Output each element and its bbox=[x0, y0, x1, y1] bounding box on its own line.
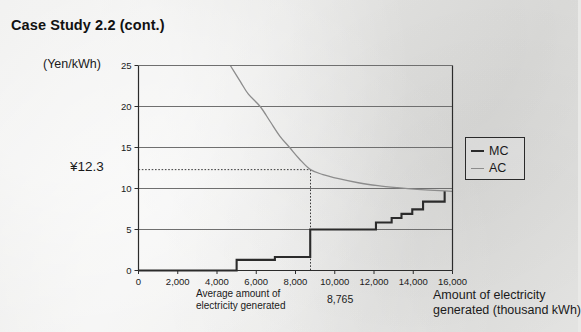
svg-text:2,000: 2,000 bbox=[166, 276, 190, 287]
svg-text:10: 10 bbox=[121, 183, 132, 194]
average-output-line2: electricity generated bbox=[196, 300, 286, 312]
svg-text:8,000: 8,000 bbox=[284, 276, 308, 287]
legend-label-mc: MC bbox=[489, 145, 508, 158]
svg-text:5: 5 bbox=[126, 224, 131, 235]
svg-text:6,000: 6,000 bbox=[244, 276, 268, 287]
svg-text:4,000: 4,000 bbox=[205, 276, 229, 287]
chart-legend: MC AC bbox=[465, 137, 525, 180]
svg-text:0: 0 bbox=[126, 265, 131, 276]
gridlines bbox=[139, 66, 453, 230]
legend-swatch-mc bbox=[471, 150, 484, 152]
legend-item-ac: AC bbox=[471, 162, 506, 175]
svg-text:25: 25 bbox=[121, 60, 132, 71]
average-output-annotation: Average amount of electricity generated bbox=[196, 288, 286, 311]
plot-axes bbox=[139, 66, 453, 271]
average-output-value: 8,765 bbox=[327, 293, 353, 305]
y-axis-ticks: 0510152025 bbox=[121, 60, 139, 276]
svg-text:16,000: 16,000 bbox=[438, 276, 467, 287]
svg-text:20: 20 bbox=[121, 101, 132, 112]
x-axis-title-line1: Amount of electricity bbox=[433, 288, 581, 303]
x-axis-ticks: 02,0004,0006,0008,00010,00012,00014,0001… bbox=[136, 271, 467, 287]
average-output-line1: Average amount of bbox=[196, 288, 286, 300]
legend-item-mc: MC bbox=[471, 145, 508, 158]
data-series bbox=[139, 66, 453, 271]
svg-text:0: 0 bbox=[136, 276, 141, 287]
svg-text:14,000: 14,000 bbox=[399, 276, 428, 287]
average-output-guide bbox=[139, 170, 311, 271]
legend-label-ac: AC bbox=[489, 162, 506, 175]
x-axis-title-line2: generated (thousand kWh) bbox=[433, 303, 581, 318]
svg-text:10,000: 10,000 bbox=[320, 276, 349, 287]
legend-swatch-ac bbox=[471, 168, 484, 169]
x-axis-title: Amount of electricity generated (thousan… bbox=[433, 288, 581, 318]
svg-text:12,000: 12,000 bbox=[359, 276, 388, 287]
svg-text:15: 15 bbox=[121, 142, 132, 153]
